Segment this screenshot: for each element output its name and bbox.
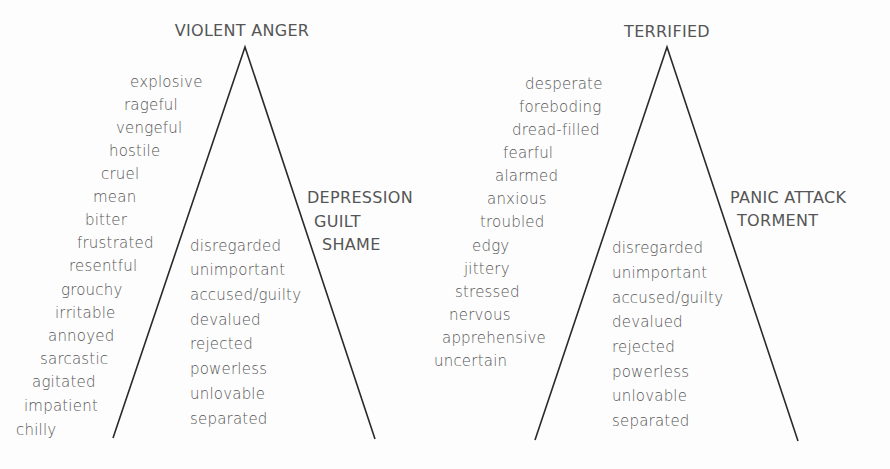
list-item: chilly [16, 421, 56, 439]
list-item: desperate [525, 75, 603, 93]
list-item: foreboding [519, 98, 601, 116]
list-item: rejected [190, 335, 253, 353]
list-item: explosive [130, 73, 203, 91]
list-item: hostile [109, 142, 160, 160]
anger-pyramid-title: VIOLENT ANGER [175, 22, 310, 40]
list-item: impatient [24, 397, 98, 415]
list-item: bitter [85, 211, 127, 229]
list-item: fearful [503, 144, 553, 162]
list-item: mean [93, 188, 136, 206]
anger-side-label: SHAME [322, 236, 381, 254]
list-item: powerless [190, 360, 267, 378]
list-item: accused/guilty [190, 286, 301, 304]
list-item: annoyed [48, 327, 114, 345]
list-item: unimportant [612, 264, 707, 282]
list-item: agitated [32, 373, 96, 391]
list-item: separated [612, 412, 690, 430]
list-item: jittery [464, 260, 510, 278]
list-item: unimportant [190, 261, 285, 279]
list-item: dread-filled [512, 121, 600, 139]
list-item: unlovable [612, 387, 687, 405]
list-item: uncertain [434, 352, 507, 370]
list-item: edgy [472, 237, 509, 255]
list-item: devalued [612, 313, 683, 331]
list-item: sarcastic [40, 350, 108, 368]
list-item: disregarded [190, 237, 281, 255]
list-item: stressed [455, 283, 520, 301]
list-item: rejected [612, 338, 675, 356]
fear-side-label: PANIC ATTACK [730, 189, 846, 207]
list-item: cruel [101, 165, 139, 183]
list-item: powerless [612, 363, 689, 381]
emotion-pyramids-diagram: VIOLENT ANGER DEPRESSION GUILT SHAME exp… [0, 0, 890, 469]
list-item: separated [190, 410, 268, 428]
list-item: rageful [124, 96, 178, 114]
fear-pyramid-title: TERRIFIED [624, 23, 710, 41]
list-item: unlovable [190, 385, 265, 403]
list-item: frustrated [77, 234, 154, 252]
list-item: troubled [480, 213, 544, 231]
list-item: nervous [449, 306, 511, 324]
anger-side-label: DEPRESSION [307, 189, 413, 207]
list-item: devalued [190, 311, 261, 329]
list-item: irritable [55, 304, 115, 322]
anger-side-label: GUILT [314, 213, 361, 231]
list-item: alarmed [495, 167, 558, 185]
list-item: resentful [69, 257, 137, 275]
fear-side-label: TORMENT [737, 212, 818, 230]
list-item: disregarded [612, 239, 703, 257]
list-item: apprehensive [442, 329, 546, 347]
list-item: vengeful [116, 119, 182, 137]
list-item: accused/guilty [612, 289, 723, 307]
list-item: grouchy [61, 281, 123, 299]
list-item: anxious [487, 190, 547, 208]
